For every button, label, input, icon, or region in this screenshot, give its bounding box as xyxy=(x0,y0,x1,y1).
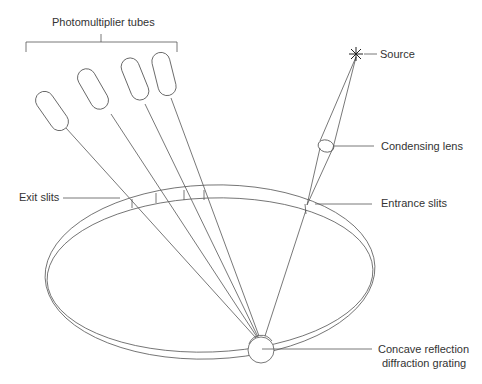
label-grating-line2: diffraction grating xyxy=(382,357,466,370)
tubes-bracket xyxy=(26,34,177,52)
label-exit-slits: Exit slits xyxy=(19,191,59,204)
lens-beam-a xyxy=(307,148,320,205)
beam-3 xyxy=(145,104,258,337)
rowland-circle-inner xyxy=(44,192,375,357)
label-source: Source xyxy=(380,48,415,61)
beam-2 xyxy=(111,114,257,337)
rowland-circle-outer xyxy=(42,179,378,364)
label-grating-line1: Concave reflection xyxy=(378,343,469,356)
source-icon xyxy=(349,47,363,61)
label-condensing-lens: Condensing lens xyxy=(381,140,463,153)
beam-4 xyxy=(171,98,259,336)
photomultiplier-tube-2 xyxy=(74,65,112,112)
lens-beam-b xyxy=(307,148,333,205)
entrance-beam xyxy=(265,210,306,336)
label-entrance-slits: Entrance slits xyxy=(381,197,447,210)
photomultiplier-tube-1 xyxy=(32,88,72,134)
label-photomultiplier-tubes: Photomultiplier tubes xyxy=(52,16,155,29)
photomultiplier-tube-3 xyxy=(118,55,151,103)
beam-1 xyxy=(66,128,256,338)
diffraction-grating xyxy=(248,337,274,363)
photomultiplier-tube-4 xyxy=(150,50,178,97)
